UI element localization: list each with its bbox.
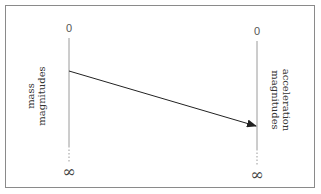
left-axis-label: mass magnitudes — [25, 61, 49, 131]
mapping-arrow — [69, 71, 256, 126]
right-axis-top-value: 0 — [247, 25, 267, 37]
left-axis-label-line2: magnitudes — [36, 61, 47, 131]
right-axis-label-line1: acceleration — [281, 60, 292, 140]
right-axis-bottom-value: ∞ — [247, 165, 267, 184]
left-axis-label-line1: mass — [25, 61, 36, 131]
right-axis-label: acceleration magnitudes — [268, 60, 292, 140]
right-axis-label-line2: magnitudes — [270, 60, 281, 140]
left-axis-top-value: 0 — [59, 22, 79, 34]
left-axis-bottom-value: ∞ — [59, 162, 79, 181]
